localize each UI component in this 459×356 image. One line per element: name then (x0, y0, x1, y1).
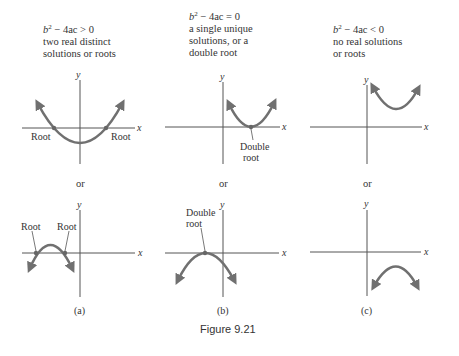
y-axis-label: y (76, 199, 82, 210)
x-axis-label: x (137, 247, 143, 258)
double-root-label-line2: root (186, 218, 202, 229)
double-root-label-line2: root (243, 152, 259, 163)
leader-line (32, 231, 36, 251)
root-point (104, 126, 108, 130)
y-axis-label: y (363, 74, 369, 85)
graph-b-top: x y Double root (165, 71, 287, 164)
panel-label-a: (a) (74, 305, 85, 317)
description-b-line1: a single unique (189, 23, 253, 34)
x-axis-label: x (423, 121, 429, 132)
column-a-header: b2 − 4ac > 0 two real distinct solutions… (43, 23, 116, 59)
parabola-up (229, 103, 274, 127)
x-axis-label: x (281, 121, 287, 132)
figure-caption: Figure 9.21 (200, 323, 256, 335)
panel-label-c: (c) (361, 305, 372, 317)
root-point (34, 251, 38, 255)
description-a-line2: solutions or roots (43, 48, 116, 59)
or-label-a: or (76, 178, 85, 189)
panel-label-b: (b) (217, 305, 229, 317)
condition-b: b2 − 4ac = 0 (189, 10, 240, 22)
root-label-left: Root (31, 131, 51, 142)
description-c-line2: or roots (333, 48, 365, 59)
root-point (52, 126, 56, 130)
description-b-line2: solutions, or a (189, 35, 249, 46)
leader-line (201, 228, 205, 251)
root-label-right: Root (57, 221, 77, 232)
description-b-line3: double root (189, 47, 237, 58)
y-axis-label: y (219, 199, 225, 210)
y-axis-label: y (219, 71, 225, 82)
double-root-label-line1: Double (186, 207, 216, 218)
double-root-point (249, 125, 253, 129)
parabola-down (178, 253, 234, 280)
graph-c-bottom: x y (310, 198, 429, 296)
condition-c: b2 − 4ac < 0 (333, 23, 384, 35)
leader-line (65, 231, 69, 251)
graph-a-bottom: x y Root Root (21, 199, 143, 297)
parabola-up (373, 87, 418, 109)
y-axis-label: y (363, 198, 369, 209)
description-a-line1: two real distinct (43, 36, 111, 47)
double-root-point (203, 251, 207, 255)
or-label-b: or (219, 178, 228, 189)
root-label-left: Root (21, 221, 41, 232)
x-axis-label: x (281, 247, 287, 258)
graph-b-bottom: x y Double root (165, 199, 287, 297)
root-label-right: Root (111, 131, 131, 142)
x-axis-label: x (136, 122, 142, 133)
root-point (63, 251, 67, 255)
x-axis-label: x (423, 246, 429, 257)
description-c-line1: no real solutions (333, 36, 402, 47)
parabola-down (374, 267, 417, 287)
graph-c-top: x y (310, 74, 429, 164)
figure-9-21: b2 − 4ac > 0 two real distinct solutions… (0, 0, 459, 356)
y-axis-label: y (75, 69, 81, 80)
leader-line (251, 129, 253, 140)
or-label-c: or (363, 178, 372, 189)
column-c-header: b2 − 4ac < 0 no real solutions or roots (333, 23, 402, 59)
double-root-label-line1: Double (240, 141, 270, 152)
condition-a: b2 − 4ac > 0 (43, 23, 94, 35)
graph-a-top: x y Root Root (22, 69, 142, 164)
column-b-header: b2 − 4ac = 0 a single unique solutions, … (189, 10, 253, 58)
